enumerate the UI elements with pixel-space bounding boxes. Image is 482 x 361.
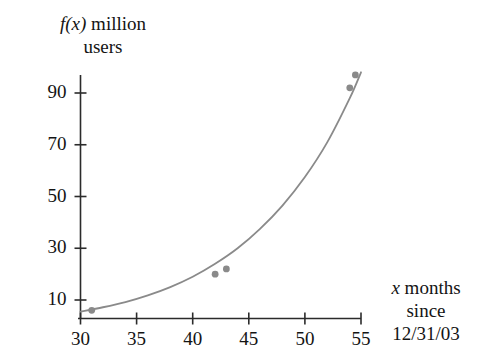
data-point-marker xyxy=(352,71,359,78)
data-point-marker xyxy=(88,307,95,314)
x-axis-tick-label: 50 xyxy=(287,328,323,350)
x-axis-tick-label: 40 xyxy=(175,328,211,350)
axes-group xyxy=(78,75,361,319)
data-point-marker xyxy=(212,271,219,278)
chart-figure: f(x) million users x months since 12/31/… xyxy=(0,0,482,361)
y-axis-tick-label: 90 xyxy=(33,81,67,103)
x-axis-tick-label: 45 xyxy=(231,328,267,350)
y-axis-tick-label: 50 xyxy=(33,185,67,207)
plot-area xyxy=(0,0,482,361)
data-point-marker xyxy=(346,84,353,91)
x-axis-tick-label: 55 xyxy=(343,328,379,350)
data-curve xyxy=(81,72,362,311)
x-axis-tick-label: 30 xyxy=(63,328,99,350)
data-point-markers xyxy=(88,71,358,313)
y-axis-tick-label: 70 xyxy=(33,133,67,155)
y-axis-tick-label: 10 xyxy=(33,288,67,310)
x-axis-tick-label: 35 xyxy=(119,328,155,350)
y-axis-tick-label: 30 xyxy=(33,236,67,258)
data-point-marker xyxy=(223,266,230,273)
